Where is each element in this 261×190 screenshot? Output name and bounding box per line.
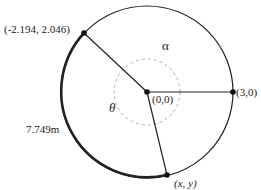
radius-to-initial-point bbox=[84, 33, 147, 92]
arc-length-label: 7.749m bbox=[26, 123, 60, 135]
center-point bbox=[144, 89, 150, 95]
start-point bbox=[230, 89, 236, 95]
theta-label: θ bbox=[109, 100, 116, 115]
start-point-label: (3,0) bbox=[236, 86, 257, 99]
circle-diagram: (-2.194, 2.046) (3,0) (0,0) (x, y) 7.749… bbox=[0, 0, 261, 190]
center-label: (0,0) bbox=[152, 93, 173, 106]
initial-point bbox=[81, 30, 87, 36]
end-point bbox=[164, 172, 170, 178]
initial-point-label: (-2.194, 2.046) bbox=[4, 23, 70, 36]
alpha-label: α bbox=[162, 38, 169, 53]
end-point-label: (x, y) bbox=[174, 177, 197, 190]
